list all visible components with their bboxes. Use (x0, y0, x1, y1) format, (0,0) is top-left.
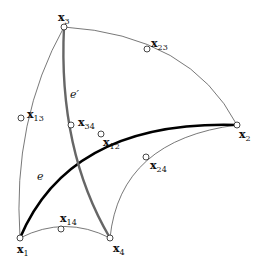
node-x4-marker (107, 235, 113, 241)
node-labels-group: x1x2x3x4x12x13x14x23x24x34 (17, 11, 251, 258)
edges-group (19, 27, 237, 238)
node-label-x4: x4 (113, 242, 125, 257)
edge-x1-x4 (20, 227, 110, 239)
node-label-x14: x14 (60, 212, 77, 227)
node-x1-marker (17, 235, 23, 241)
edge-x4-x2 (110, 125, 237, 238)
node-label-x24: x24 (150, 159, 167, 174)
edge-label-e-prime: e′ (70, 88, 80, 101)
nodes-group (17, 24, 240, 241)
node-label-x1: x1 (17, 243, 29, 258)
node-label-x23: x23 (151, 37, 168, 52)
node-x34-marker (68, 122, 74, 128)
node-x23-marker (144, 46, 150, 52)
node-label-x13: x13 (27, 108, 44, 123)
edge-x1-x3 (19, 27, 64, 238)
node-label-x3: x3 (58, 11, 70, 26)
node-label-x34: x34 (78, 116, 95, 131)
edge-label-e: e (37, 170, 44, 183)
node-x14-marker (58, 226, 64, 232)
node-label-x2: x2 (239, 128, 251, 143)
node-x13-marker (18, 115, 24, 121)
geometry-diagram: ee′ x1x2x3x4x12x13x14x23x24x34 (0, 0, 266, 266)
node-x24-marker (143, 154, 149, 160)
node-label-x12: x12 (103, 136, 120, 151)
